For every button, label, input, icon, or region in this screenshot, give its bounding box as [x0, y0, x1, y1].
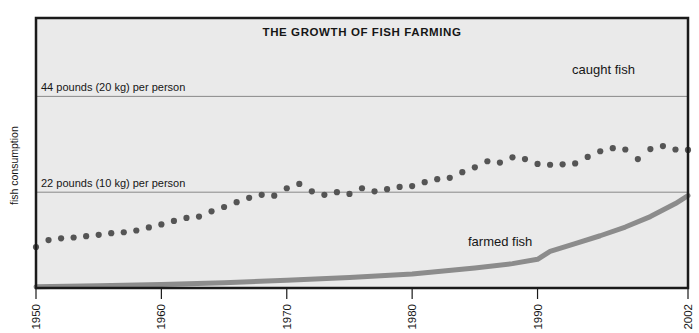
data-point — [296, 181, 302, 187]
data-point — [547, 162, 553, 168]
data-point — [96, 232, 102, 238]
data-point — [409, 183, 415, 189]
data-point — [459, 169, 465, 175]
data-point — [284, 185, 290, 191]
data-point — [309, 188, 315, 194]
data-point — [497, 159, 503, 165]
x-tick-label-2002: 2002 — [682, 304, 694, 330]
data-point — [509, 154, 515, 160]
data-point — [635, 156, 641, 162]
farmed-fish-annotation: farmed fish — [468, 234, 532, 249]
x-axis-ticks: 195019601970198019902002 — [30, 289, 694, 330]
data-point — [234, 199, 240, 205]
data-point — [397, 184, 403, 190]
x-tick-label-1990: 1990 — [532, 304, 544, 330]
x-tick-label-1960: 1960 — [155, 304, 167, 330]
data-point — [45, 237, 51, 243]
data-point — [447, 175, 453, 181]
data-point — [246, 195, 252, 201]
data-point — [672, 146, 678, 152]
data-point — [610, 145, 616, 151]
x-tick-label-1950: 1950 — [30, 304, 42, 330]
data-point — [384, 186, 390, 192]
y-axis-title: fish consumption — [8, 126, 20, 205]
data-point — [171, 218, 177, 224]
x-tick-label-1970: 1970 — [281, 304, 293, 330]
data-point — [359, 185, 365, 191]
data-point — [271, 193, 277, 199]
data-point — [647, 146, 653, 152]
data-point — [83, 233, 89, 239]
caught-fish-annotation: caught fish — [572, 62, 635, 77]
data-point — [334, 189, 340, 195]
data-point — [346, 191, 352, 197]
data-point — [422, 179, 428, 185]
data-point — [434, 176, 440, 182]
data-point — [133, 227, 139, 233]
chart-figure: 195019601970198019902002 44 pounds (20 k… — [0, 0, 699, 333]
chart-title: THE GROWTH OF FISH FARMING — [263, 26, 462, 38]
data-point — [208, 208, 214, 214]
data-point — [108, 230, 114, 236]
data-point — [183, 215, 189, 221]
data-point — [259, 192, 265, 198]
data-point — [121, 229, 127, 235]
data-point — [146, 224, 152, 230]
data-point — [321, 192, 327, 198]
gridline-label-22: 22 pounds (10 kg) per person — [41, 177, 185, 189]
gridline-label-44: 44 pounds (20 kg) per person — [41, 81, 185, 93]
data-point — [585, 154, 591, 160]
data-point — [622, 146, 628, 152]
data-point — [371, 188, 377, 194]
data-point — [560, 161, 566, 167]
data-point — [484, 158, 490, 164]
data-point — [572, 160, 578, 166]
data-point — [660, 143, 666, 149]
data-point — [534, 161, 540, 167]
data-point — [221, 204, 227, 210]
data-point — [158, 221, 164, 227]
x-tick-label-1980: 1980 — [406, 304, 418, 330]
data-point — [597, 148, 603, 154]
data-point — [58, 235, 64, 241]
data-point — [472, 164, 478, 170]
plot-background — [36, 18, 688, 288]
fish-farming-chart: 195019601970198019902002 44 pounds (20 k… — [0, 0, 699, 333]
data-point — [196, 213, 202, 219]
data-point — [522, 156, 528, 162]
data-point — [71, 234, 77, 240]
